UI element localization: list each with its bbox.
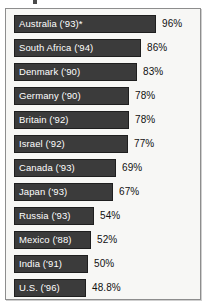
bar-rows-container: Australia ('93)*96%South Africa ('94)86%… <box>6 9 200 299</box>
bar-value-label: 67% <box>119 187 139 197</box>
bar-fill: Canada ('93) <box>14 159 116 177</box>
bar-category-label: Israel ('92) <box>15 139 65 149</box>
bar-track: India ('91) <box>14 255 88 273</box>
bar-category-label: Japan ('93) <box>15 187 67 197</box>
bar-row: U.S. ('96)48.8% <box>6 279 200 297</box>
bar-fill: Germany ('90) <box>14 87 129 105</box>
bar-fill: Japan ('93) <box>14 183 113 201</box>
bar-row: Germany ('90)78% <box>6 87 200 105</box>
bar-category-label: Australia ('93)* <box>15 19 83 29</box>
bar-fill: Denmark ('90) <box>14 63 137 81</box>
cropped-title-artifact <box>33 0 37 4</box>
bar-value-label: 69% <box>122 163 142 173</box>
bar-fill: Britain ('92) <box>14 111 129 129</box>
bar-category-label: South Africa ('94) <box>15 43 93 53</box>
bar-value-label: 77% <box>134 139 154 149</box>
bar-value-label: 78% <box>135 115 155 125</box>
bar-row: India ('91)50% <box>6 255 200 273</box>
bar-chart-figure: Australia ('93)*96%South Africa ('94)86%… <box>0 0 206 306</box>
bar-category-label: Canada ('93) <box>15 163 75 173</box>
bar-fill: South Africa ('94) <box>14 39 141 57</box>
bar-category-label: U.S. ('96) <box>15 283 60 293</box>
bar-row: Russia ('93)54% <box>6 207 200 225</box>
bar-value-label: 54% <box>100 211 120 221</box>
bar-track: South Africa ('94) <box>14 39 141 57</box>
chart-panel: Australia ('93)*96%South Africa ('94)86%… <box>5 8 201 300</box>
bar-track: Britain ('92) <box>14 111 129 129</box>
bar-row: Denmark ('90)83% <box>6 63 200 81</box>
bar-fill: U.S. ('96) <box>14 279 86 297</box>
bar-row: South Africa ('94)86% <box>6 39 200 57</box>
bar-value-label: 86% <box>147 43 167 53</box>
bar-fill: Australia ('93)* <box>14 15 156 33</box>
bar-category-label: Denmark ('90) <box>15 67 80 77</box>
bar-track: Russia ('93) <box>14 207 94 225</box>
bar-row: Britain ('92)78% <box>6 111 200 129</box>
bar-value-label: 96% <box>162 19 182 29</box>
bar-value-label: 48.8% <box>92 283 121 293</box>
bar-row: Japan ('93)67% <box>6 183 200 201</box>
bar-fill: Russia ('93) <box>14 207 94 225</box>
bar-row: Israel ('92)77% <box>6 135 200 153</box>
bar-track: Israel ('92) <box>14 135 128 153</box>
bar-row: Australia ('93)*96% <box>6 15 200 33</box>
bar-track: Denmark ('90) <box>14 63 137 81</box>
bar-category-label: Germany ('90) <box>15 91 81 101</box>
bar-fill: India ('91) <box>14 255 88 273</box>
bar-category-label: Russia ('93) <box>15 211 71 221</box>
bar-track: Germany ('90) <box>14 87 129 105</box>
bar-track: Mexico ('88) <box>14 231 91 249</box>
bar-category-label: Mexico ('88) <box>15 235 72 245</box>
bar-category-label: India ('91) <box>15 259 62 269</box>
bar-value-label: 50% <box>94 259 114 269</box>
bar-value-label: 83% <box>143 67 163 77</box>
bar-track: Canada ('93) <box>14 159 116 177</box>
bar-value-label: 78% <box>135 91 155 101</box>
bar-track: Japan ('93) <box>14 183 113 201</box>
bar-row: Canada ('93)69% <box>6 159 200 177</box>
bar-track: U.S. ('96) <box>14 279 86 297</box>
bar-fill: Israel ('92) <box>14 135 128 153</box>
bar-value-label: 52% <box>97 235 117 245</box>
bar-track: Australia ('93)* <box>14 15 156 33</box>
bar-row: Mexico ('88)52% <box>6 231 200 249</box>
bar-category-label: Britain ('92) <box>15 115 69 125</box>
bar-fill: Mexico ('88) <box>14 231 91 249</box>
